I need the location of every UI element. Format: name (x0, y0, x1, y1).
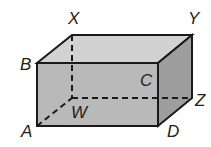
label-z: Z (194, 91, 206, 110)
label-w: W (71, 103, 89, 122)
label-b: B (20, 55, 31, 74)
label-c: C (140, 71, 153, 90)
label-y: Y (188, 9, 201, 28)
label-d: D (167, 122, 179, 141)
label-x: X (67, 9, 80, 28)
prism-diagram: X Y B C W Z A D (0, 0, 211, 147)
label-a: A (20, 122, 32, 141)
